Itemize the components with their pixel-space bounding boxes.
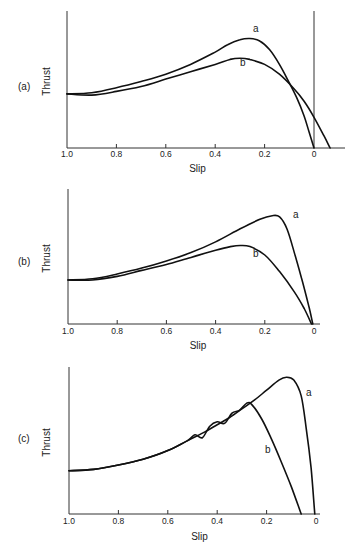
panel-label: (a): [18, 81, 30, 92]
panel-a: (a)Thrust1.00.80.60.40.20Slipab: [18, 11, 345, 174]
x-axis-label: Slip: [191, 531, 208, 542]
figure: (a)Thrust1.00.80.60.40.20Slipab (b)Thrus…: [0, 0, 354, 550]
x-tick-label: 0.6: [162, 516, 174, 526]
x-tick-label: 0.8: [111, 326, 123, 336]
x-tick-label: 1.0: [63, 516, 75, 526]
x-tick-label: 0.4: [210, 326, 222, 336]
x-tick-label: 0.2: [261, 516, 273, 526]
x-tick-label: 0: [314, 516, 319, 526]
x-axis-label: Slip: [189, 163, 206, 174]
curve-label-a: a: [293, 209, 299, 220]
y-axis-label: Thrust: [41, 244, 52, 273]
curve-label-b: b: [253, 248, 259, 259]
x-tick-label: 0.8: [110, 149, 122, 159]
x-tick-label: 0.4: [209, 149, 221, 159]
curve-a: [69, 377, 315, 514]
curve-label-b: b: [240, 57, 246, 68]
curve-label-a: a: [306, 387, 312, 398]
x-tick-label: 0.4: [211, 516, 223, 526]
y-axis-label: Thrust: [41, 428, 52, 457]
x-tick-label: 0.2: [259, 326, 271, 336]
panel-label: (c): [18, 433, 30, 444]
y-axis-label: Thrust: [41, 67, 52, 96]
curve-a: [68, 215, 313, 324]
x-axis-label: Slip: [190, 340, 207, 351]
curve-label-a: a: [253, 23, 259, 34]
curve-b: [69, 402, 301, 514]
x-tick-label: 0.6: [160, 326, 172, 336]
x-tick-label: 0.6: [160, 149, 172, 159]
x-tick-label: 1.0: [61, 149, 73, 159]
x-tick-label: 0.2: [259, 149, 271, 159]
curve-label-b: b: [265, 444, 271, 455]
curve-b: [67, 58, 330, 148]
x-tick-label: 0: [312, 149, 317, 159]
panel-label: (b): [18, 256, 30, 267]
x-tick-label: 0: [312, 326, 317, 336]
panel-c: (c)Thrust1.00.80.60.40.20Slipab: [18, 367, 320, 542]
x-tick-label: 0.8: [112, 516, 124, 526]
panel-b: (b)Thrust1.00.80.60.40.20Slipab: [18, 189, 320, 351]
curve-b: [68, 245, 312, 324]
x-tick-label: 1.0: [62, 326, 74, 336]
